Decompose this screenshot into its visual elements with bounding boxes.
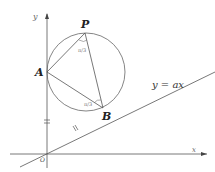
y-axis-label: y <box>32 12 38 21</box>
point-label-A: A <box>34 66 44 79</box>
circle <box>47 33 125 111</box>
y-axis-arrow <box>45 13 49 19</box>
tick-marks-OB <box>73 125 78 131</box>
origin-label: O <box>40 156 45 163</box>
angle-label-P: π/3 <box>78 47 86 53</box>
x-axis-label: x <box>192 146 196 154</box>
angle-label-B: π/3 <box>84 101 92 107</box>
geometry-diagram: P A B O y x y = ax π/3 π/3 <box>0 0 215 172</box>
line-label: y = ax <box>151 79 184 90</box>
line-y-ax <box>20 72 215 167</box>
angle-arc-P <box>79 40 87 42</box>
point-label-P: P <box>80 18 90 31</box>
point-label-B: B <box>101 110 111 123</box>
x-axis-arrow <box>201 152 207 156</box>
